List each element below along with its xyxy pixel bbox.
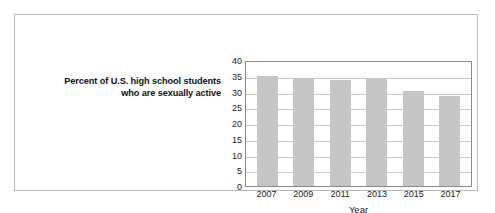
y-axis-tick-label: 5 xyxy=(220,167,242,176)
y-axis-tick-label: 35 xyxy=(220,72,242,81)
y-axis-tick-label: 10 xyxy=(220,151,242,160)
y-axis-tick-label: 40 xyxy=(220,57,242,66)
bar xyxy=(366,79,387,186)
chart-caption: Percent of U.S. high school students who… xyxy=(31,75,221,99)
x-axis-title: Year xyxy=(245,204,472,208)
y-axis-tick-label: 0 xyxy=(220,183,242,192)
bar xyxy=(403,91,424,186)
x-axis-tick-labels: 200720092011201320152017 xyxy=(245,189,472,199)
bar-chart: 4035302520151050 20072009201120132015201… xyxy=(220,37,485,207)
x-axis-tick-label: 2015 xyxy=(403,189,424,199)
x-axis-tick-label: 2007 xyxy=(256,189,277,199)
y-axis-tick-labels: 4035302520151050 xyxy=(220,61,242,187)
x-axis-tick-label: 2011 xyxy=(330,189,351,199)
bar xyxy=(439,96,460,186)
caption-line-1: Percent of U.S. high school students xyxy=(31,75,221,87)
y-axis-tick-label: 15 xyxy=(220,135,242,144)
bar xyxy=(257,76,278,186)
x-axis-tick-label: 2013 xyxy=(366,189,387,199)
y-axis-tick-label: 25 xyxy=(220,104,242,113)
y-axis-tick-label: 30 xyxy=(220,88,242,97)
x-axis-tick-label: 2009 xyxy=(293,189,314,199)
bar-series xyxy=(246,62,471,186)
x-axis-tick-label: 2017 xyxy=(440,189,461,199)
y-axis-tick-label: 20 xyxy=(220,120,242,129)
figure-frame: Percent of U.S. high school students who… xyxy=(14,14,478,191)
bar xyxy=(293,78,314,186)
caption-line-2: who are sexually active xyxy=(31,87,221,99)
bar xyxy=(330,80,351,186)
plot-area xyxy=(245,61,472,187)
